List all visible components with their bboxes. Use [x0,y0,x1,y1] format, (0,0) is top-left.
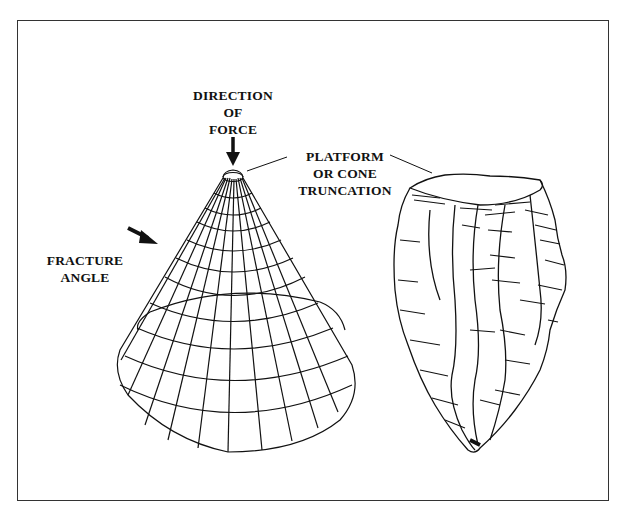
label-line: TRUNCATION [290,182,400,199]
label-line: PLATFORM [290,148,400,165]
core-hatching [398,195,564,445]
label-line: OF [185,104,281,121]
label-line: FRACTURE [44,252,126,269]
direction-of-force-label: DIRECTION OF FORCE [185,87,281,138]
platform-label: PLATFORM OR CONE TRUNCATION [290,148,400,199]
fracture-angle-arrow-icon [128,228,158,244]
label-line: ANGLE [44,269,126,286]
cone-truncation [223,173,243,182]
label-line: OR CONE [290,165,400,182]
core-platform [410,174,543,205]
label-line: FORCE [185,121,281,138]
cone-wireframe [117,170,355,452]
fracture-angle-label: FRACTURE ANGLE [44,252,126,286]
label-line: DIRECTION [185,87,281,104]
force-arrow-icon [226,137,240,166]
